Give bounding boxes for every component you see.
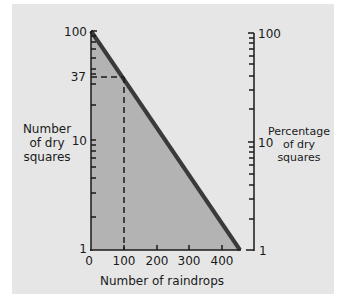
chart-svg: 100 37 10 1 Number of dry squares 0 100 … — [0, 0, 347, 305]
y-right-label-line3: squares — [277, 151, 320, 164]
x-axis-label: Number of raindrops — [100, 274, 224, 288]
y-left-tick-100: 100 — [64, 25, 87, 39]
y-left-tick-10: 10 — [72, 134, 87, 148]
x-tick-100: 100 — [113, 254, 136, 268]
y-right-tick-100: 100 — [258, 27, 281, 41]
y-right-label-line1: Percentage — [268, 125, 330, 138]
x-tick-400: 400 — [211, 254, 234, 268]
right-y-axis — [246, 33, 254, 251]
y-right-tick-1: 1 — [259, 244, 267, 258]
y-left-label-line1: Number — [23, 122, 71, 136]
x-tick-200: 200 — [146, 254, 169, 268]
y-left-tick-37: 37 — [71, 70, 86, 84]
y-left-label-line2: of dry — [29, 136, 64, 150]
y-right-tick-10: 10 — [258, 136, 273, 150]
x-tick-0: 0 — [85, 254, 93, 268]
y-left-label-line3: squares — [23, 150, 70, 164]
y-right-label-line2: of dry — [283, 138, 316, 151]
x-tick-300: 300 — [178, 254, 201, 268]
